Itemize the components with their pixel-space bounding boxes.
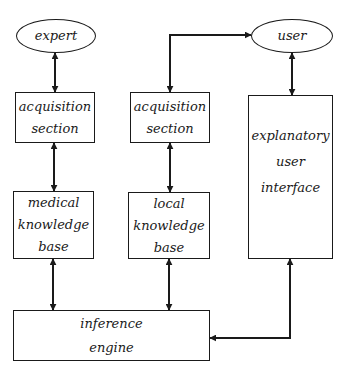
diagram-canvas: expert user acquisition section acquisit… [0,0,345,373]
node-label-line: section [146,118,193,140]
node-label-line: local [153,193,184,215]
node-label-line: acquisition [19,96,91,118]
node-label-line: section [31,118,78,140]
node-label-line: base [154,237,184,259]
node-acquisition-section-left: acquisition section [15,92,95,143]
node-user-label: user [278,25,307,47]
node-label-line: medical [28,192,80,214]
node-label-line: engine [89,336,134,360]
node-label-line: inference [80,312,142,336]
node-medical-knowledge-base: medical knowledge base [13,191,94,259]
node-explanatory-user-interface: explanatory user interface [248,95,333,259]
node-user: user [251,19,333,53]
node-acquisition-section-right: acquisition section [130,92,210,143]
node-label-line: knowledge [133,215,204,237]
node-label-line: explanatory [252,123,330,149]
node-local-knowledge-base: local knowledge base [128,192,210,259]
node-label-line: interface [261,175,320,201]
node-label-line: acquisition [134,96,206,118]
edge-user-acquisition [170,35,251,92]
node-inference-engine: inference engine [13,310,210,361]
node-expert-label: expert [35,25,77,47]
node-label-line: user [276,149,305,175]
node-label-line: base [38,236,68,258]
node-expert: expert [16,19,96,53]
node-label-line: knowledge [18,214,89,236]
edge-explanatory-inference [210,259,290,338]
